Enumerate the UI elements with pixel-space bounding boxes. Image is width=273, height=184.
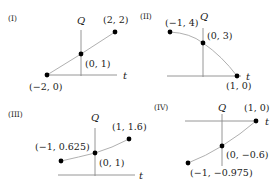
- point: [168, 30, 173, 35]
- t-axis-label: t: [265, 116, 270, 127]
- q-axis-label: Q: [77, 15, 85, 26]
- point-label: (1, 1.6): [112, 121, 147, 132]
- point: [254, 119, 259, 124]
- point-label: (0, 1): [85, 58, 111, 69]
- t-axis-label: t: [123, 70, 128, 81]
- point: [93, 151, 98, 156]
- point-label: (−1, 4): [165, 17, 199, 28]
- panel-label: (II): [140, 12, 152, 21]
- point: [220, 144, 225, 149]
- point: [201, 41, 206, 46]
- point: [45, 73, 50, 78]
- panel-2: (II) t Q (−1, 4) (0, 3) (1, 0): [140, 11, 252, 91]
- point: [186, 161, 191, 166]
- point: [127, 137, 132, 142]
- point-label: (0, −0.6): [226, 149, 269, 160]
- q-axis-label: Q: [200, 11, 208, 22]
- point-label: (−1, −0.975): [190, 167, 253, 178]
- point-label: (0, 1): [99, 157, 125, 168]
- point-label: (−2, 0): [29, 81, 63, 92]
- panel-4: (IV) t Q (−1, −0.975) (0, −0.6) (1, 0): [154, 102, 270, 178]
- point: [235, 74, 240, 79]
- point: [59, 159, 64, 164]
- panel-label: (IV): [154, 103, 168, 112]
- q-axis-label: Q: [91, 112, 99, 123]
- point: [79, 52, 84, 57]
- point-label: (1, 0): [226, 80, 252, 91]
- point-label: (2, 2): [103, 14, 129, 25]
- point: [113, 30, 118, 35]
- panel-1: (I) t Q (−2, 0) (0, 1) (2, 2): [8, 14, 129, 92]
- panel-label: (I): [8, 14, 17, 23]
- graphs-figure: (I) t Q (−2, 0) (0, 1) (2, 2) (II) t Q (…: [0, 0, 273, 184]
- panel-3: (III) t Q (−1, 0.625) (0, 1) (1, 1.6): [8, 110, 147, 181]
- point-label: (0, 3): [207, 30, 233, 41]
- point-label: (−1, 0.625): [35, 141, 90, 152]
- point-label: (1, 0): [244, 102, 270, 113]
- t-axis-label: t: [139, 170, 144, 181]
- panel-label: (III): [8, 110, 23, 119]
- q-axis-label: Q: [218, 102, 226, 113]
